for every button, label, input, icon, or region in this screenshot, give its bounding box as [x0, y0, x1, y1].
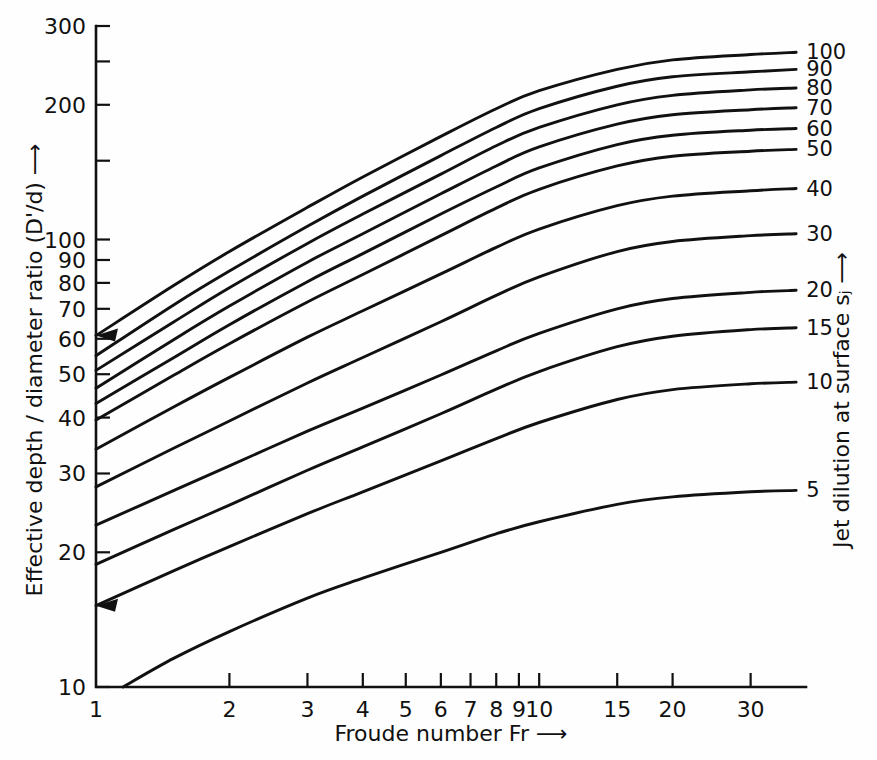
curve-end-label: 50	[806, 137, 833, 161]
x-tick-label: 3	[300, 697, 314, 722]
x-axis-title: Froude number Fr ⟶	[335, 721, 568, 746]
x-tick-label: 5	[399, 697, 413, 722]
chart-svg: 12345678910152030 1020304050607080901002…	[0, 0, 877, 760]
y2-axis-title: Jet dilution at surface sⱼ ⟶	[829, 252, 854, 550]
x-tick-label: 1	[89, 697, 103, 722]
x-tick-label: 2	[222, 697, 236, 722]
data-curve	[96, 382, 796, 605]
curves-group	[96, 52, 796, 687]
x-tick-label: 9	[512, 697, 526, 722]
y-tick-label: 50	[58, 362, 86, 387]
y-tick-label: 10	[58, 675, 86, 700]
y-axis-title: Effective depth / diameter ratio (D'/d) …	[22, 144, 47, 597]
x-tick-group	[229, 673, 750, 687]
y-tick-label: 70	[58, 297, 86, 322]
y-tick-label: 200	[44, 93, 86, 118]
curve-end-label: 5	[806, 478, 819, 502]
axis-lines	[96, 26, 806, 687]
y-tick-label: 30	[58, 461, 86, 486]
x-tick-label-group: 12345678910152030	[89, 697, 765, 722]
x-tick-label: 4	[356, 697, 370, 722]
data-curve	[96, 129, 796, 404]
x-tick-label: 6	[434, 697, 448, 722]
axes-group	[96, 26, 806, 687]
y-tick-group	[96, 26, 110, 687]
chart-figure: 12345678910152030 1020304050607080901002…	[0, 0, 877, 760]
x-tick-label: 10	[525, 697, 553, 722]
data-curve	[96, 88, 796, 370]
x-tick-label: 8	[489, 697, 503, 722]
data-curve	[96, 108, 796, 389]
x-tick-label: 7	[464, 697, 478, 722]
y-tick-label: 20	[58, 540, 86, 565]
curve-end-label: 30	[806, 222, 833, 246]
y-tick-label: 100	[44, 228, 86, 253]
x-tick-label: 20	[659, 697, 687, 722]
y-tick-label: 300	[44, 14, 86, 39]
data-curve	[123, 490, 796, 687]
curve-end-label: 40	[806, 177, 833, 201]
x-tick-label: 15	[603, 697, 631, 722]
y-tick-label: 40	[58, 406, 86, 431]
x-tick-label: 30	[737, 697, 765, 722]
y-tick-label: 80	[58, 271, 86, 296]
data-curve	[96, 328, 796, 565]
y-tick-label-group: 102030405060708090100200300	[44, 14, 86, 700]
data-curve	[96, 290, 796, 525]
y-tick-label: 60	[58, 327, 86, 352]
curve-start-arrow-group	[96, 329, 118, 612]
